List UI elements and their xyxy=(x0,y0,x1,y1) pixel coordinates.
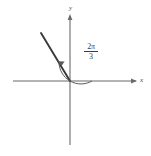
terminal-ray xyxy=(41,33,70,81)
angle-diagram: y x 2π 3 xyxy=(0,0,151,156)
angle-fraction-denominator: 3 xyxy=(80,52,102,62)
x-axis-label: x xyxy=(140,77,143,84)
angle-measure-label: 2π 3 xyxy=(80,42,102,62)
x-axis-arrow-icon xyxy=(131,79,137,84)
y-axis-label: y xyxy=(69,5,72,12)
angle-fraction-numerator: 2π xyxy=(80,42,102,51)
coordinate-plane-svg xyxy=(0,0,151,156)
y-axis-arrow-icon xyxy=(68,14,73,20)
